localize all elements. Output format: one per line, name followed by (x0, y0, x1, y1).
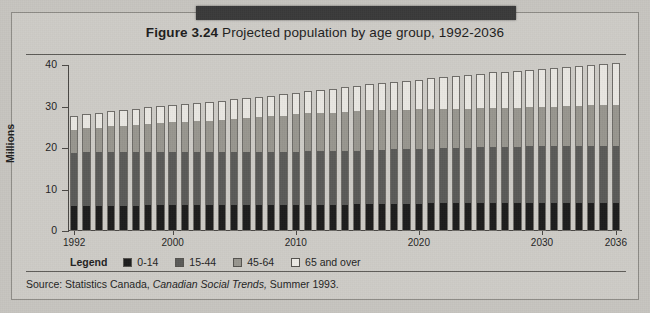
bar-2009 (279, 94, 287, 231)
page-background: Figure 3.24 Projected population by age … (0, 0, 650, 313)
bar-segment-0-14 (526, 203, 532, 230)
bar-segment-45-64 (465, 109, 471, 148)
bar-segment-65-and-over (440, 78, 446, 109)
bar-2010 (292, 93, 300, 231)
bar-segment-65-and-over (453, 77, 459, 109)
bar-segment-45-64 (243, 118, 249, 152)
source-agency: Statistics Canada, (65, 278, 150, 290)
bar-segment-0-14 (379, 204, 385, 230)
bar-segment-45-64 (366, 110, 372, 150)
bar-segment-65-and-over (157, 107, 163, 123)
bar-segment-65-and-over (490, 74, 496, 108)
bar-segment-45-64 (428, 109, 434, 148)
bar-segment-45-64 (379, 110, 385, 150)
bar-segment-45-64 (83, 128, 89, 152)
bar-2031 (550, 68, 558, 231)
bar-segment-45-64 (194, 121, 200, 152)
bar-segment-15-44 (133, 152, 139, 206)
bar-segment-0-14 (268, 205, 274, 230)
bar-2007 (255, 97, 263, 231)
bar-segment-65-and-over (563, 68, 569, 107)
bar-segment-0-14 (157, 205, 163, 230)
bar-2034 (587, 65, 595, 231)
bar-segment-15-44 (145, 152, 151, 205)
bar-segment-0-14 (108, 206, 114, 230)
bar-segment-45-64 (576, 106, 582, 147)
bar-2033 (575, 66, 583, 231)
bar-1992 (70, 116, 78, 231)
bar-segment-0-14 (342, 205, 348, 230)
legend-item-0-14: 0-14 (123, 256, 158, 268)
bar-segment-45-64 (108, 126, 114, 151)
bar-segment-65-and-over (280, 96, 286, 116)
bar-segment-45-64 (477, 108, 483, 147)
bar-segment-65-and-over (403, 82, 409, 110)
bar-2015 (353, 86, 361, 231)
bar-segment-45-64 (391, 110, 397, 150)
bar-segment-65-and-over (391, 83, 397, 110)
y-tick-mark (62, 231, 69, 232)
y-tick-label: 20 (12, 141, 57, 153)
bar-segment-65-and-over (588, 66, 594, 105)
bar-segment-0-14 (391, 204, 397, 230)
bar-segment-65-and-over (317, 91, 323, 113)
bar-segment-0-14 (403, 204, 409, 230)
bar-1996 (119, 110, 127, 231)
bar-segment-65-and-over (551, 69, 557, 107)
bar-segment-0-14 (305, 205, 311, 230)
bar-segment-0-14 (96, 206, 102, 230)
bar-segment-0-14 (366, 204, 372, 230)
bar-segment-45-64 (305, 113, 311, 151)
bar-segment-45-64 (182, 122, 188, 152)
bar-segment-45-64 (563, 106, 569, 146)
bar-segment-15-44 (465, 148, 471, 204)
bar-segment-45-64 (169, 122, 175, 151)
bar-2004 (218, 101, 226, 231)
legend-title: Legend (70, 256, 107, 268)
bar-segment-45-64 (600, 105, 606, 146)
bar-segment-45-64 (330, 113, 336, 152)
chart-legend: Legend 0-14 15-44 45-64 65 and over (70, 256, 378, 268)
bar-segment-0-14 (490, 203, 496, 230)
bar-segment-0-14 (243, 205, 249, 230)
bar-segment-45-64 (157, 123, 163, 152)
stacked-bars (68, 65, 622, 231)
bar-segment-65-and-over (71, 117, 77, 130)
source-note: Source: Statistics Canada, Canadian Soci… (26, 278, 339, 290)
x-tick-label: 2036 (605, 237, 627, 248)
bar-segment-0-14 (465, 203, 471, 230)
bar-segment-15-44 (219, 152, 225, 205)
bar-segment-65-and-over (256, 98, 262, 117)
bar-segment-45-64 (416, 109, 422, 149)
bar-segment-45-64 (453, 109, 459, 148)
bar-segment-45-64 (526, 107, 532, 146)
bar-2036 (612, 63, 620, 231)
bar-segment-15-44 (403, 149, 409, 203)
bar-segment-15-44 (563, 146, 569, 203)
x-tick-label: 2000 (162, 237, 184, 248)
bar-segment-65-and-over (366, 85, 372, 110)
bar-segment-0-14 (428, 203, 434, 230)
bar-segment-65-and-over (539, 70, 545, 107)
bar-segment-15-44 (477, 147, 483, 203)
source-issue: Summer 1993. (270, 278, 339, 290)
bar-segment-15-44 (243, 152, 249, 205)
bar-segment-45-64 (551, 107, 557, 147)
bar-segment-45-64 (96, 128, 102, 152)
x-tick-label: 2020 (408, 237, 430, 248)
bar-segment-0-14 (317, 205, 323, 230)
bar-segment-0-14 (514, 203, 520, 230)
bar-segment-15-44 (576, 146, 582, 203)
bar-segment-65-and-over (613, 64, 619, 104)
bar-segment-15-44 (354, 151, 360, 205)
bar-segment-15-44 (539, 146, 545, 203)
bar-2016 (365, 84, 373, 231)
bar-segment-15-44 (169, 152, 175, 206)
bar-segment-15-44 (440, 148, 446, 203)
bar-segment-0-14 (453, 203, 459, 230)
legend-swatch-0-14 (123, 258, 132, 267)
bar-segment-15-44 (330, 151, 336, 204)
bar-segment-15-44 (342, 151, 348, 205)
bar-segment-15-44 (268, 152, 274, 205)
bar-segment-15-44 (613, 146, 619, 203)
